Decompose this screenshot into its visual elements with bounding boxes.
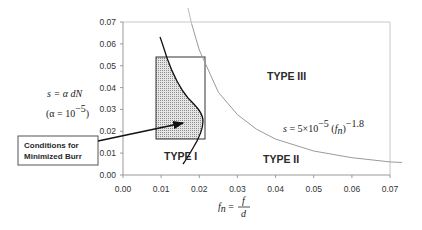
y-tick-label: 0.04 [99,83,116,93]
x-tick-labels: 0.00 0.01 0.02 0.03 0.04 0.05 0.06 0.07 [115,184,399,194]
y-tick-labels: 0.07 0.06 0.05 0.04 0.03 0.02 0.01 0.00 [99,17,116,180]
x-tick-label: 0.01 [153,184,170,194]
y-axis [120,22,123,175]
svg-text:s = α dN: s = α dN [47,88,83,99]
y-axis-formula: s = α dN (α = 10−5) [46,88,89,120]
type3-label: TYPE III [267,70,306,82]
type1-label: TYPE I [164,150,197,162]
minimized-burr-callout: Conditions for Minimized Burr [18,136,98,165]
svg-text:fn =: fn = [218,201,234,214]
x-tick-label: 0.02 [191,184,208,194]
x-tick-label: 0.03 [229,184,246,194]
chart-canvas: 0.07 0.06 0.05 0.04 0.03 0.02 0.01 0.00 … [0,0,422,230]
x-axis [123,175,390,178]
type2-label: TYPE II [263,153,299,165]
svg-text:(α = 10−5): (α = 10−5) [46,103,89,120]
y-tick-label: 0.01 [99,148,116,158]
x-tick-label: 0.05 [305,184,322,194]
svg-text:Conditions for: Conditions for [24,141,79,150]
svg-text:d: d [241,208,247,219]
y-tick-label: 0.07 [99,17,116,27]
x-tick-label: 0.04 [267,184,284,194]
y-tick-label: 0.00 [99,170,116,180]
power-law-equation: s = 5×10−5 (fn)−1.8 [283,118,364,136]
svg-text:f: f [242,195,246,206]
svg-text:s = 5×10−5 (fn)−1.8: s = 5×10−5 (fn)−1.8 [283,118,364,136]
y-tick-label: 0.05 [99,61,116,71]
y-tick-label: 0.02 [99,126,116,136]
x-tick-label: 0.06 [344,184,361,194]
x-tick-label: 0.07 [382,184,399,194]
x-axis-formula: fn = f d [218,195,250,219]
y-tick-label: 0.06 [99,39,116,49]
x-tick-label: 0.00 [115,184,132,194]
svg-text:Minimized Burr: Minimized Burr [24,152,82,161]
power-law-curve [192,24,402,163]
y-tick-label: 0.03 [99,104,116,114]
